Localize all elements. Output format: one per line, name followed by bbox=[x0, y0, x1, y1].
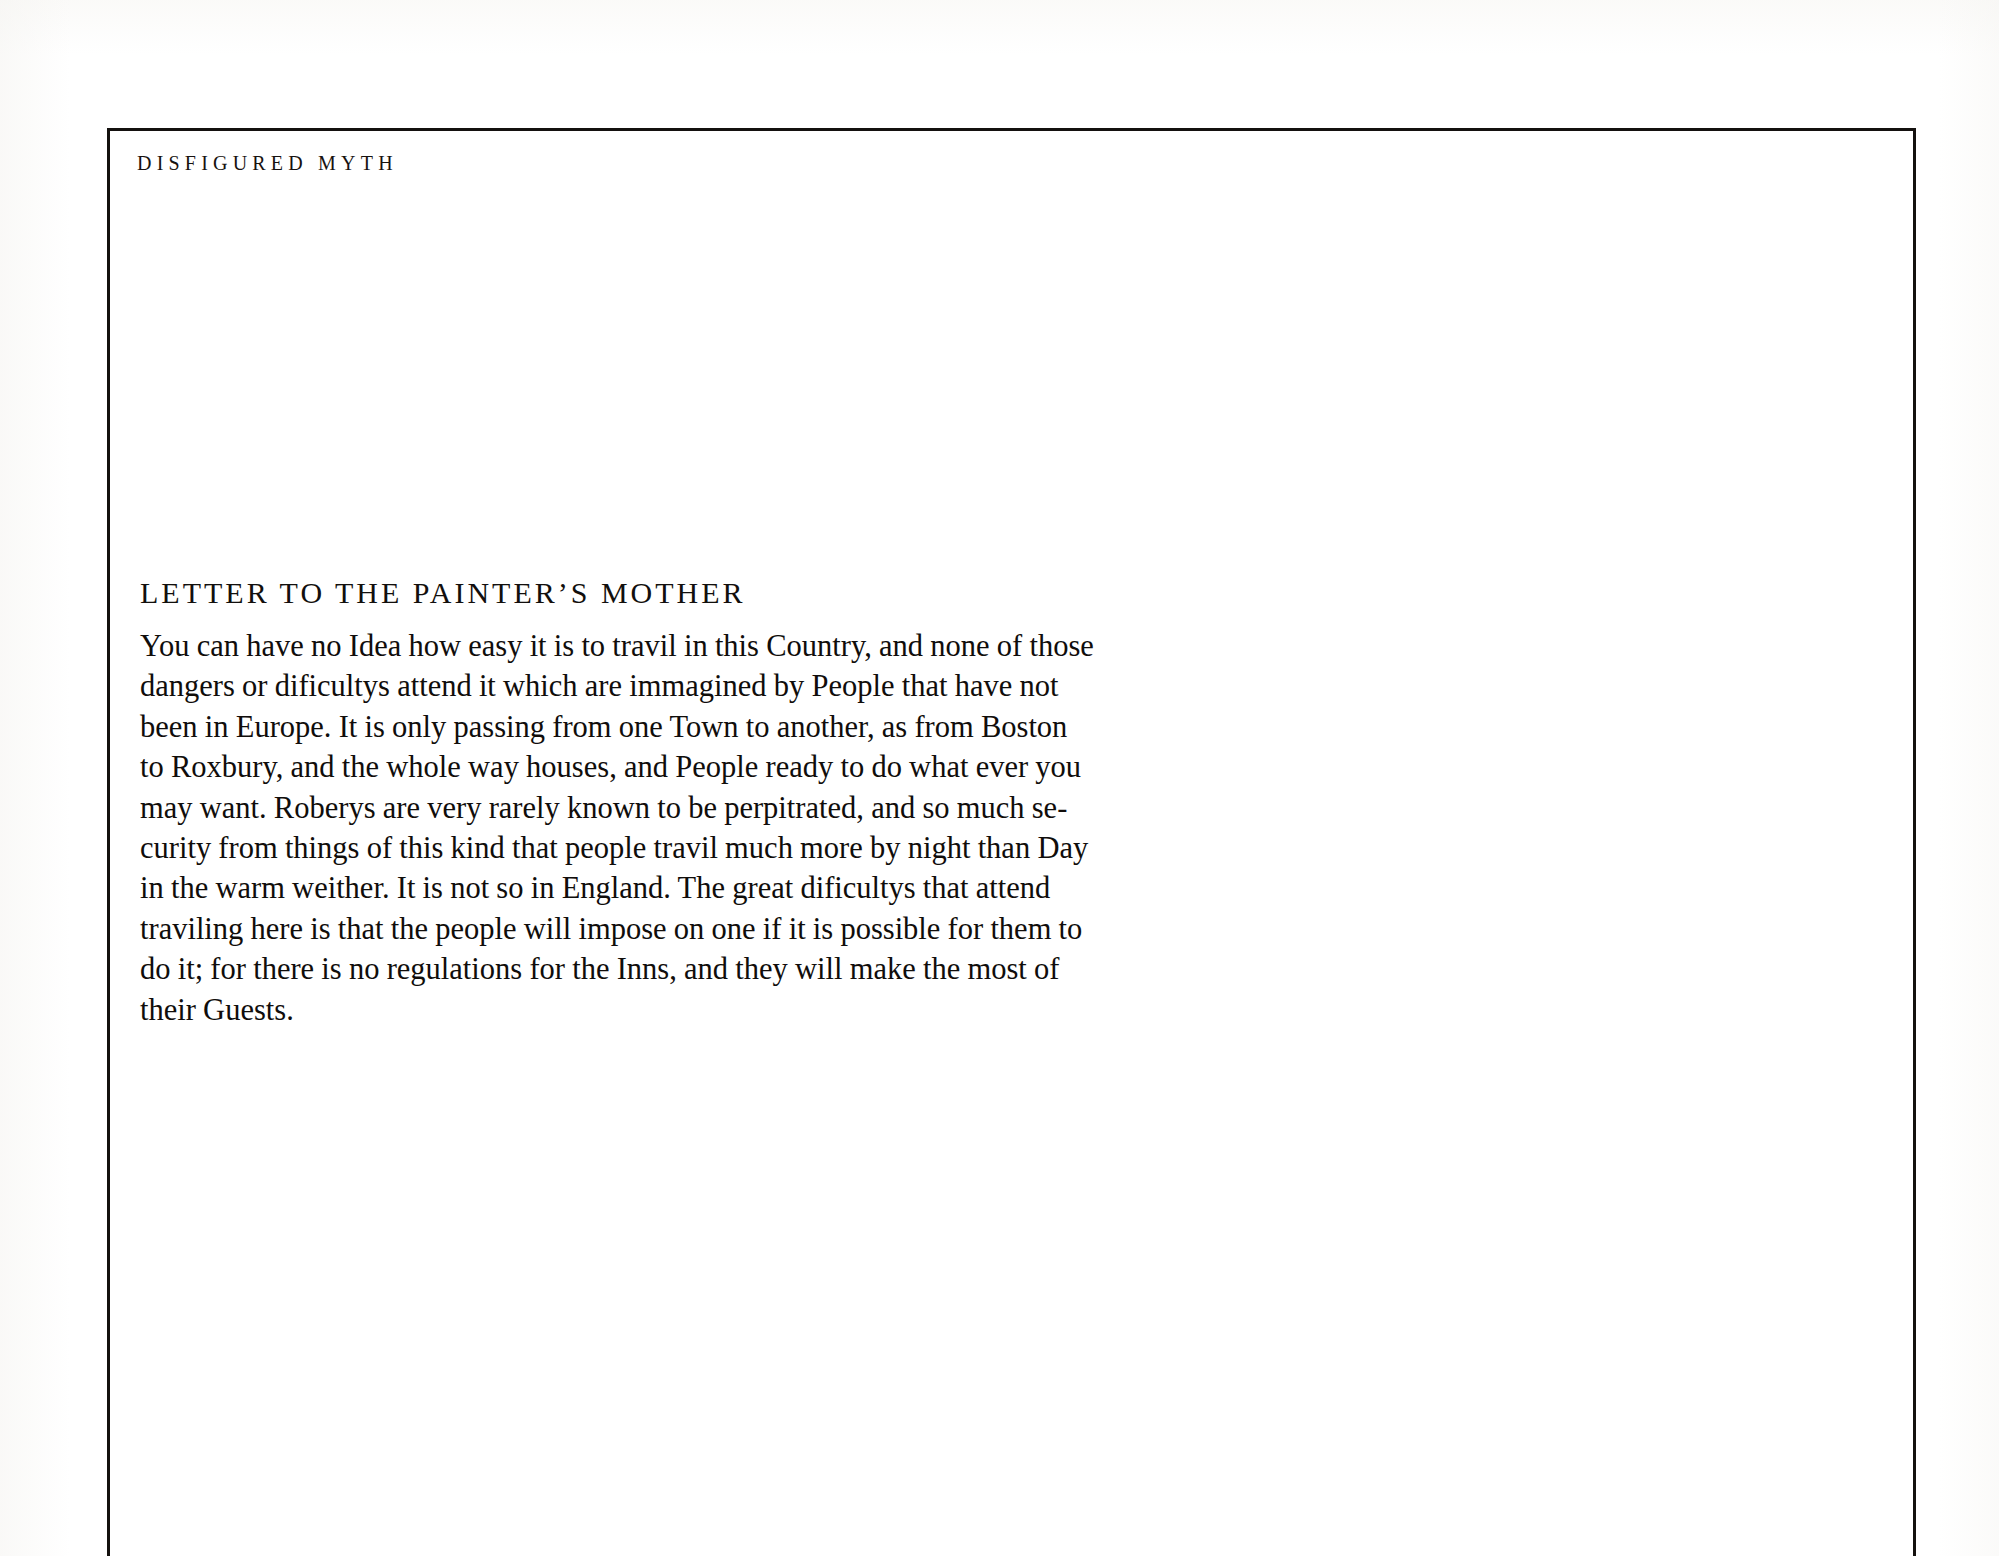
body-line: do it; for there is no regulations for t… bbox=[140, 949, 1018, 989]
page-frame-top-rule bbox=[107, 128, 1916, 131]
body-line: dangers or dificultys attend it which ar… bbox=[140, 666, 1018, 706]
body-line: You can have no Idea how easy it is to t… bbox=[140, 626, 1018, 666]
body-line: their Guests. bbox=[140, 990, 1018, 1030]
body-paragraph: You can have no Idea how easy it is to t… bbox=[140, 626, 1018, 1030]
body-line: to Roxbury, and the whole way houses, an… bbox=[140, 747, 1018, 787]
running-head: DISFIGURED MYTH bbox=[137, 152, 398, 175]
body-line: curity from things of this kind that peo… bbox=[140, 828, 1018, 868]
body-line: been in Europe. It is only passing from … bbox=[140, 707, 1018, 747]
body-line: traviling here is that the people will i… bbox=[140, 909, 1018, 949]
body-line: in the warm weither. It is not so in Eng… bbox=[140, 868, 1018, 908]
page-frame-left-rule bbox=[107, 128, 110, 1556]
body-line: may want. Roberys are very rarely known … bbox=[140, 788, 1018, 828]
section-title: LETTER TO THE PAINTER’S MOTHER bbox=[140, 578, 1018, 608]
page-frame-right-rule bbox=[1913, 128, 1916, 1556]
text-block: LETTER TO THE PAINTER’S MOTHER You can h… bbox=[140, 578, 1018, 1030]
